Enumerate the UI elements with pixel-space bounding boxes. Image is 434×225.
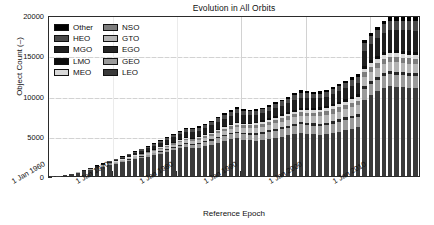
bar-segment-mgo — [311, 98, 315, 107]
legend-label-other: Other — [73, 23, 93, 32]
bar-segment-leo — [401, 87, 405, 176]
bar-segment-gto — [305, 116, 309, 123]
bar-segment-heo — [413, 21, 417, 30]
bar-segment-heo — [407, 21, 411, 30]
bar-segment-geo — [382, 76, 386, 88]
bar-segment-leo — [337, 132, 341, 176]
bar-segment-gto — [388, 62, 392, 71]
bar-segment-mgo — [248, 115, 252, 122]
x-tick-mark — [48, 171, 49, 176]
legend-swatch-other — [54, 24, 69, 31]
bar-segment-gto — [369, 72, 373, 81]
bar-segment-gto — [413, 64, 417, 73]
bar-segment-mgo — [343, 88, 347, 99]
legend-swatch-geo — [103, 58, 118, 65]
legend-item-geo[interactable]: GEO — [103, 57, 140, 66]
legend-swatch-heo — [54, 35, 69, 42]
bar-segment-geo — [362, 89, 366, 100]
bar-segment-leo — [388, 86, 392, 176]
bar-segment-mgo — [292, 100, 296, 109]
bar-segment-mgo — [241, 115, 245, 123]
legend-column-2: NSOGTOEGOGEOLEO — [103, 23, 140, 77]
legend-label-lmo: LMO — [73, 57, 90, 66]
chart-legend: OtherHEOMGOLMOMEO NSOGTOEGOGEOLEO — [52, 22, 142, 78]
x-tick-mark — [176, 171, 177, 176]
legend-item-heo[interactable]: HEO — [54, 34, 93, 43]
legend-column-1: OtherHEOMGOLMOMEO — [54, 23, 93, 77]
bar-segment-geo — [388, 74, 392, 86]
bar-segment-mgo — [388, 30, 392, 50]
bar-segment-mgo — [305, 98, 309, 108]
legend-swatch-mgo — [54, 46, 69, 53]
bar-segment-gto — [331, 114, 335, 122]
legend-item-gto[interactable]: GTO — [103, 34, 140, 43]
legend-item-mgo[interactable]: MGO — [54, 45, 93, 54]
bar-segment-geo — [407, 76, 411, 88]
bar-segment-leo — [311, 134, 315, 176]
x-axis-tick-labels: 1 Jan 19601 Jan 19701 Jan 19801 Jan 1990… — [48, 178, 420, 212]
y-tick-label: 20000 — [23, 12, 44, 21]
bar-segment-geo — [311, 126, 315, 135]
bar-segment-mgo — [337, 91, 341, 101]
bar-segment-heo — [394, 21, 398, 30]
x-tick-mark — [112, 171, 113, 176]
legend-label-mgo: MGO — [73, 45, 92, 54]
x-tick-mark — [369, 171, 370, 176]
y-tick-label: 5000 — [27, 132, 44, 141]
bar-segment-mgo — [273, 108, 277, 116]
bar-segment-mgo — [369, 44, 373, 61]
bar-segment-heo — [401, 21, 405, 30]
bar-segment-mgo — [413, 31, 417, 52]
chart-figure: Evolution in All Orbits Object Count (–)… — [0, 0, 434, 225]
bar-segment-mgo — [280, 106, 284, 115]
chart-title: Evolution in All Orbits — [48, 3, 420, 13]
bar-segment-gto — [407, 64, 411, 73]
legend-label-gto: GTO — [122, 34, 139, 43]
bar-segment-leo — [305, 134, 309, 176]
bar-segment-leo — [375, 91, 379, 176]
legend-label-leo: LEO — [122, 68, 138, 77]
bar-segment-leo — [413, 88, 417, 176]
legend-swatch-ego — [103, 46, 118, 53]
x-axis-tick-marks — [48, 171, 420, 177]
bar-segment-geo — [273, 131, 277, 138]
bar-segment-geo — [318, 126, 322, 135]
bar-segment-mgo — [356, 83, 360, 95]
bar-segment-mgo — [382, 33, 386, 52]
legend-item-meo[interactable]: MEO — [54, 68, 93, 77]
bar-segment-leo — [369, 95, 373, 176]
bar-segment-heo — [388, 21, 392, 30]
bar-segment-geo — [413, 76, 417, 88]
legend-item-other[interactable]: Other — [54, 23, 93, 32]
bar-segment-gto — [375, 68, 379, 77]
legend-item-ego[interactable]: EGO — [103, 45, 140, 54]
legend-item-lmo[interactable]: LMO — [54, 57, 93, 66]
legend-item-nso[interactable]: NSO — [103, 23, 140, 32]
bar-segment-mgo — [375, 38, 379, 56]
bar-segment-geo — [375, 80, 379, 92]
y-axis-tick-labels: 05000100001500020000 — [0, 16, 44, 177]
bar-segment-gto — [324, 115, 328, 122]
bar-segment-geo — [350, 118, 354, 128]
bar — [412, 17, 418, 176]
bar-segment-heo — [382, 24, 386, 33]
bar-segment-heo — [362, 43, 366, 50]
bar-segment-gto — [362, 77, 366, 86]
bar-segment-mgo — [299, 98, 303, 108]
legend-swatch-gto — [103, 35, 118, 42]
legend-label-nso: NSO — [122, 23, 139, 32]
bar-segment-mgo — [260, 113, 264, 120]
bar-segment-mgo — [324, 97, 328, 106]
bar-segment-mgo — [350, 86, 354, 97]
bar-segment-mgo — [235, 113, 239, 122]
bar-segment-geo — [369, 84, 373, 95]
bar-segment-geo — [337, 122, 341, 132]
legend-label-geo: GEO — [122, 57, 140, 66]
bar-segment-mgo — [267, 111, 271, 119]
bar-segment-geo — [292, 126, 296, 134]
bar-segment-geo — [299, 124, 303, 132]
bar-segment-geo — [280, 129, 284, 136]
legend-item-leo[interactable]: LEO — [103, 68, 140, 77]
x-tick-mark — [305, 171, 306, 176]
bar-segment-mgo — [229, 116, 233, 124]
